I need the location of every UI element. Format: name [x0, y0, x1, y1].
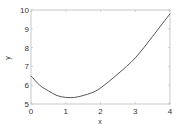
x-axis-label: x: [98, 118, 102, 125]
x-tick-label: 0: [29, 107, 34, 116]
plot-area: [31, 10, 170, 104]
y-axis-label: y: [4, 56, 12, 60]
x-tick-label: 1: [64, 107, 69, 116]
y-tick-label: 7: [25, 62, 30, 71]
y-tick-label: 8: [25, 44, 30, 53]
x-tick-label: 2: [98, 107, 103, 116]
line-chart: 5678910 01234 x y: [0, 0, 180, 126]
y-tick-label: 6: [25, 81, 30, 90]
y-tick-label: 9: [25, 25, 30, 34]
x-tick-label: 3: [133, 107, 138, 116]
y-tick-label: 10: [20, 6, 29, 15]
x-tick-label: 4: [168, 107, 173, 116]
